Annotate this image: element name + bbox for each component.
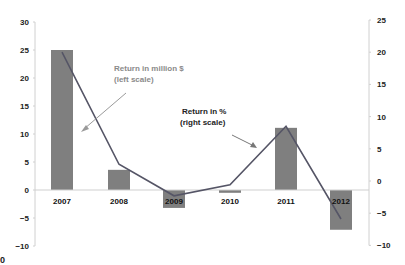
right-tick-label: 15 xyxy=(377,80,386,89)
bar xyxy=(275,128,297,190)
category-label: 2009 xyxy=(165,197,183,206)
line-series-return-percent xyxy=(62,52,341,219)
annotations: Return in million $(left scale)Return in… xyxy=(81,64,257,148)
line-path xyxy=(62,52,341,219)
right-tick-label: 25 xyxy=(377,16,386,25)
left-y-axis: 302520151050−5−10 xyxy=(15,18,35,251)
dual-axis-chart: 302520151050−5−10 2520151050−5−10 200720… xyxy=(0,0,405,265)
left-tick-label: −10 xyxy=(15,242,29,251)
category-label: 2012 xyxy=(332,197,350,206)
category-label: 2010 xyxy=(221,197,239,206)
left-tick-label: −5 xyxy=(20,214,30,223)
category-label: 2011 xyxy=(277,197,295,206)
right-tick-label: 5 xyxy=(377,145,382,154)
left-tick-label: 25 xyxy=(20,46,29,55)
left-tick-label: 5 xyxy=(25,158,30,167)
left-tick-label: 15 xyxy=(20,102,29,111)
bar xyxy=(51,50,73,190)
category-label: 2007 xyxy=(53,197,71,206)
right-tick-label: −10 xyxy=(377,241,391,250)
left-tick-label: 30 xyxy=(20,18,29,27)
category-label: 2008 xyxy=(110,197,128,206)
annotation-left-scale: Return in million $ xyxy=(114,64,184,73)
left-tick-label: 0 xyxy=(25,186,30,195)
right-tick-label: 20 xyxy=(377,48,386,57)
x-axis-category-labels: 200720082009201020112012 xyxy=(53,197,350,206)
annotation-left-scale-sub: (left scale) xyxy=(114,75,154,84)
annotation-right-scale: Return in % xyxy=(182,107,226,116)
annotation-right-scale-sub: (right scale) xyxy=(180,118,226,127)
corner-label: 0 xyxy=(0,255,5,265)
bar xyxy=(108,170,130,190)
bar xyxy=(330,190,352,230)
left-tick-label: 20 xyxy=(20,74,29,83)
right-tick-label: 0 xyxy=(377,177,382,186)
left-tick-label: 10 xyxy=(20,130,29,139)
right-y-axis: 2520151050−5−10 xyxy=(369,16,391,250)
bar-series-return-million xyxy=(51,50,352,230)
right-tick-label: 10 xyxy=(377,113,386,122)
right-tick-label: −5 xyxy=(377,209,387,218)
